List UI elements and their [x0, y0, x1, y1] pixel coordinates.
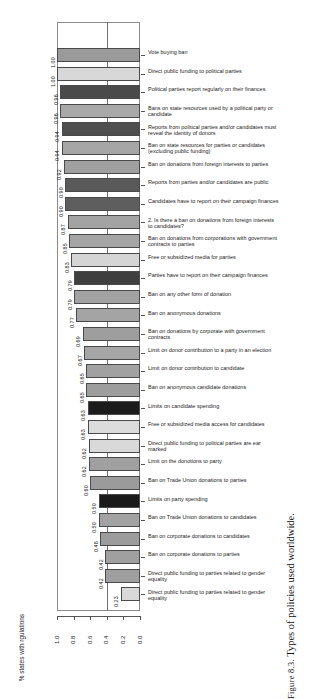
bar-value-label: 0.94 — [54, 150, 60, 161]
bar — [69, 234, 140, 248]
bar — [105, 550, 140, 564]
category-tick — [141, 446, 145, 447]
category-tick — [141, 111, 145, 112]
category-tick — [141, 371, 145, 372]
category-tick — [141, 204, 145, 205]
category-tick — [141, 353, 145, 354]
category-tick — [141, 278, 145, 279]
category-tick — [141, 297, 145, 298]
category-label: Ban on donations by corporate with gover… — [148, 328, 280, 340]
category-tick — [141, 427, 145, 428]
bar — [57, 48, 140, 62]
bar — [74, 290, 140, 304]
category-label: 2. Is there a ban on donations from fore… — [148, 217, 280, 229]
bar — [62, 122, 140, 136]
bar — [68, 215, 140, 229]
category-tick — [141, 557, 145, 558]
bar — [89, 457, 140, 471]
bar — [64, 160, 140, 174]
bar — [76, 308, 140, 322]
category-label: Limits on party spending — [148, 496, 280, 502]
category-label: Limits on candidate spending — [148, 403, 280, 409]
bar-value-label: 0.79 — [67, 299, 73, 310]
bar-value-label: 0.62 — [81, 466, 87, 477]
bar — [105, 569, 140, 583]
category-label: Ban on state resources for parties or ca… — [148, 142, 280, 154]
bar — [60, 85, 140, 99]
category-label: Free or subsidized media access for cand… — [148, 421, 280, 427]
category-label: Candidates have to report on their campa… — [148, 198, 280, 204]
bar-value-label: 0.79 — [67, 280, 73, 291]
bar — [88, 420, 140, 434]
bar — [84, 346, 140, 360]
category-label: Ban on corporate donations to candidates — [148, 533, 280, 539]
bar-value-label: 0.50 — [91, 504, 97, 515]
category-label: Parties have to report on their campaign… — [148, 272, 280, 278]
axis-tick — [107, 616, 108, 620]
category-label: Ban on corporate donations to parties — [148, 551, 280, 557]
axis-tick — [57, 616, 58, 620]
category-label: Ban on any other form of donation — [148, 291, 280, 297]
category-tick — [141, 260, 145, 261]
x-axis-line — [57, 616, 140, 617]
category-label: Ban on Trade Union donations to candidat… — [148, 514, 280, 520]
category-tick — [141, 576, 145, 577]
bar-value-label: 0.42 — [98, 559, 104, 570]
category-label: Bans on state resources used by a politi… — [148, 105, 280, 117]
bar — [121, 587, 140, 601]
figure-caption: Figure 8.3. Types of policies used world… — [285, 513, 296, 699]
category-label: Reports from parties and/or candidates a… — [148, 179, 280, 185]
category-label: Free or subsidized media for parties — [148, 254, 280, 260]
category-tick — [141, 483, 145, 484]
category-tick — [141, 74, 145, 75]
caption-text: Types of policies used worldwide. — [285, 513, 296, 657]
bar-value-label: 0.63 — [80, 411, 86, 422]
category-label: Limit on the donotions to party — [148, 458, 280, 464]
bar — [86, 383, 140, 397]
bar-value-label: 0.96 — [53, 113, 59, 124]
bar-value-label: 0.90 — [58, 187, 64, 198]
category-label: Ban on anonymous donations — [148, 310, 280, 316]
bar-value-label: 0.65 — [79, 392, 85, 403]
category-label: Direct public funding to political parti… — [148, 68, 280, 74]
bar-value-label: 1.00 — [50, 57, 56, 68]
axis-tick — [90, 616, 91, 620]
bar-value-label: 0.85 — [62, 243, 68, 254]
category-tick — [141, 185, 145, 186]
category-tick — [141, 129, 145, 130]
bar-value-label: 0.90 — [58, 206, 64, 217]
category-label: Direct public funding to parties related… — [148, 570, 280, 582]
bar — [65, 178, 140, 192]
axis-tick-label: 0.6 — [87, 636, 93, 644]
bar — [74, 271, 140, 285]
category-tick — [141, 408, 145, 409]
category-tick — [141, 167, 145, 168]
bar-value-label: 0.94 — [54, 132, 60, 143]
bar — [89, 439, 140, 453]
bar-value-label: 0.65 — [79, 373, 85, 384]
category-label: Ban on Trade Union donations to parties — [148, 477, 280, 483]
bar-value-label: 0.63 — [80, 429, 86, 440]
caption-prefix: Figure 8.3. — [287, 659, 296, 699]
category-tick — [141, 520, 145, 521]
axis-tick-label: 0.8 — [70, 636, 76, 644]
category-tick — [141, 501, 145, 502]
bar — [86, 364, 140, 378]
category-tick — [141, 222, 145, 223]
bar — [90, 476, 140, 490]
category-label: Direct public funding to parties related… — [148, 589, 280, 601]
bar-value-label: 1.00 — [50, 76, 56, 87]
axis-tick-label: 0.4 — [103, 636, 109, 644]
category-tick — [141, 539, 145, 540]
category-label: Limit on donor contribution to candidate — [148, 365, 280, 371]
axis-tick-label: 0.2 — [120, 636, 126, 644]
bar — [60, 104, 140, 118]
bar-value-label: 0.60 — [83, 485, 89, 496]
bar-value-label: 0.96 — [53, 94, 59, 105]
axis-tick — [123, 616, 124, 620]
bar — [99, 513, 141, 527]
category-tick — [141, 315, 145, 316]
category-label: Ban on donations from corporations with … — [148, 235, 280, 247]
bar-value-label: 0.62 — [81, 448, 87, 459]
